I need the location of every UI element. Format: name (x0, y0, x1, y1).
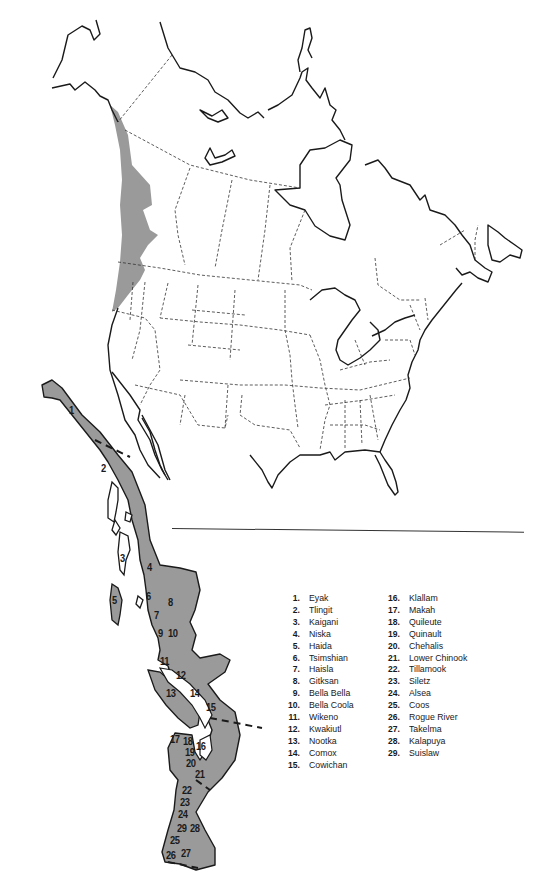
inset-label-7: 7 (154, 610, 159, 621)
legend-item: 21.Lower Chinook (380, 652, 472, 664)
legend-name: Lower Chinook (409, 652, 467, 664)
legend-number: 8. (282, 675, 300, 687)
inset-label-14: 14 (190, 688, 200, 699)
legend-name: Kalapuya (409, 735, 445, 747)
overview-shaded-region (110, 105, 158, 312)
legend-number: 27. (382, 723, 400, 735)
inset-label-17: 17 (170, 734, 180, 745)
legend-number: 24. (382, 687, 400, 699)
legend-number: 28. (382, 735, 400, 747)
legend-item: 27.Takelma (380, 723, 472, 735)
legend-number: 5. (282, 640, 300, 652)
inset-label-26: 26 (166, 850, 176, 861)
legend-item: 17.Makah (380, 604, 472, 616)
inset-label-9: 9 (158, 628, 163, 639)
inset-label-15: 15 (206, 702, 216, 713)
legend-item: 1.Eyak (280, 592, 358, 604)
inset-label-22: 22 (182, 785, 192, 796)
inset-label-1: 1 (69, 405, 74, 416)
legend-name: Cowichan (309, 759, 347, 771)
legend-number: 15. (282, 759, 300, 771)
legend-number: 14. (282, 747, 300, 759)
legend-name: Niska (309, 628, 331, 640)
legend-name: Rogue River (409, 711, 458, 723)
legend-name: Makah (409, 604, 435, 616)
inset-label-4: 4 (147, 562, 152, 573)
legend-item: 11.Wikeno (280, 711, 358, 723)
legend-number: 18. (382, 616, 400, 628)
inset-label-25: 25 (170, 835, 180, 846)
legend-item: 7.Haisla (280, 663, 358, 675)
legend-number: 26. (382, 711, 400, 723)
legend-item: 10.Bella Coola (280, 699, 358, 711)
legend-number: 20. (382, 640, 400, 652)
inset-label-12: 12 (176, 670, 186, 681)
legend-item: 20.Chehalis (380, 640, 472, 652)
legend-number: 16. (382, 592, 400, 604)
legend-number: 22. (382, 663, 400, 675)
legend-name: Haida (309, 640, 332, 652)
inset-label-3: 3 (120, 553, 125, 564)
legend-name: Wikeno (309, 711, 338, 723)
legend-number: 9. (282, 687, 300, 699)
inset-label-16: 16 (196, 741, 206, 752)
legend-name: Quileute (409, 616, 442, 628)
legend-number: 6. (282, 652, 300, 664)
legend-number: 29. (382, 747, 400, 759)
legend-name: Eyak (309, 592, 328, 604)
legend-name: Kwakiutl (309, 723, 342, 735)
legend-number: 17. (382, 604, 400, 616)
legend-number: 1. (282, 592, 300, 604)
legend-column-2: 16.Klallam 17.Makah 18.Quileute 19.Quina… (380, 592, 472, 759)
legend-item: 25.Coos (380, 699, 472, 711)
legend-name: Bella Coola (309, 699, 354, 711)
legend-item: 13.Nootka (280, 735, 358, 747)
legend-name: Haisla (309, 663, 333, 675)
legend-item: 4.Niska (280, 628, 358, 640)
legend-number: 23. (382, 675, 400, 687)
inset-label-28: 28 (190, 823, 200, 834)
inset-label-8: 8 (168, 597, 173, 608)
legend-name: Gitksan (309, 675, 339, 687)
inset-label-2: 2 (101, 463, 106, 474)
inset-label-21: 21 (195, 769, 205, 780)
legend-item: 29.Suislaw (380, 747, 472, 759)
legend-item: 12.Kwakiutl (280, 723, 358, 735)
legend-name: Chehalis (409, 640, 443, 652)
legend-item: 16.Klallam (380, 592, 472, 604)
legend-item: 2.Tlingit (280, 604, 358, 616)
legend-number: 7. (282, 663, 300, 675)
legend-number: 4. (282, 628, 300, 640)
legend-item: 5.Haida (280, 640, 358, 652)
legend-name: Takelma (409, 723, 442, 735)
inset-label-5: 5 (112, 595, 117, 606)
legend-number: 10. (282, 699, 300, 711)
legend-name: Coos (409, 699, 429, 711)
legend-item: 8.Gitksan (280, 675, 358, 687)
legend-number: 13. (282, 735, 300, 747)
inset-label-23: 23 (180, 797, 190, 808)
legend-name: Tlingit (309, 604, 332, 616)
legend-item: 6.Tsimshian (280, 652, 358, 664)
legend-name: Comox (309, 747, 337, 759)
legend-number: 3. (282, 616, 300, 628)
legend-name: Quinault (409, 628, 442, 640)
legend-name: Siletz (409, 675, 430, 687)
legend-item: 28.Kalapuya (380, 735, 472, 747)
legend-number: 25. (382, 699, 400, 711)
legend-item: 14.Comox (280, 747, 358, 759)
legend-item: 15.Cowichan (280, 759, 358, 771)
legend-name: Tillamook (409, 663, 446, 675)
legend-item: 3.Kaigani (280, 616, 358, 628)
legend-item: 19.Quinault (380, 628, 472, 640)
inset-shaded-region (42, 380, 240, 870)
legend-number: 11. (282, 711, 300, 723)
legend-column-1: 1.Eyak 2.Tlingit 3.Kaigani 4.Niska 5.Hai… (280, 592, 358, 771)
legend-name: Tsimshian (309, 652, 348, 664)
legend-number: 21. (382, 652, 400, 664)
inset-label-6: 6 (146, 591, 151, 602)
inset-label-24: 24 (178, 809, 188, 820)
legend-item: 23.Siletz (380, 675, 472, 687)
legend-name: Nootka (309, 735, 337, 747)
legend-item: 26.Rogue River (380, 711, 472, 723)
